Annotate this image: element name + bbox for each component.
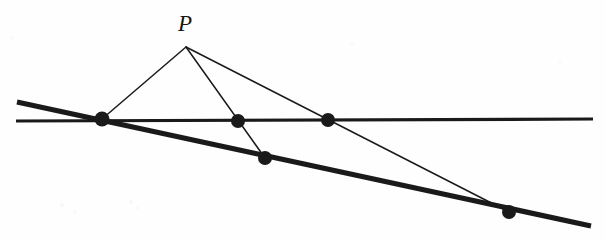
geometry-figure: P [0,0,606,241]
point-on-oblique-mid [258,151,272,165]
ray-group [102,47,509,212]
paper-speckles [10,36,561,213]
point-on-oblique-right [502,205,516,219]
vertex-label-p: P [178,12,192,35]
figure-canvas [0,0,606,241]
point-mid-horizontal [231,114,245,128]
ray-p-through-right-horizontal-to-oblique [186,47,509,212]
ray-p-to-left-intersection [102,47,186,119]
intersection-point-left [95,112,110,127]
point-right-horizontal [321,113,335,127]
